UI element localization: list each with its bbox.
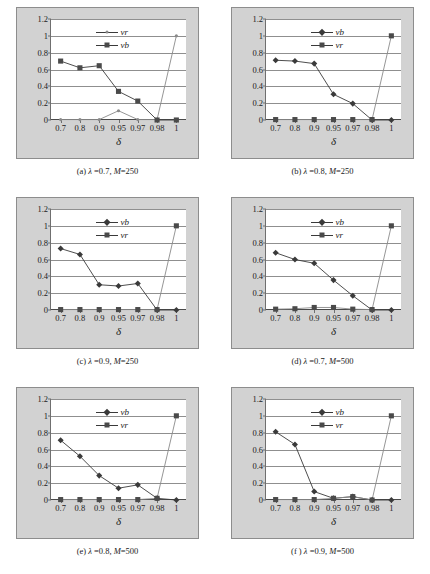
x-tick-label: 0.98 xyxy=(365,504,380,513)
y-tick-label: 0.8 xyxy=(37,238,48,247)
y-tick-label: 0.6 xyxy=(37,445,48,454)
x-tick-label: 0.98 xyxy=(365,314,380,323)
legend-label-vr: vr xyxy=(336,420,344,430)
panel-caption-c: (c) λ =0.9, M=250 xyxy=(77,356,139,366)
y-tick-label: 0.6 xyxy=(37,255,48,264)
legend-swatch-vb xyxy=(311,222,333,223)
plot-frame: 1.210.80.60.40.200.70.80.90.950.970.981δ… xyxy=(16,7,199,159)
y-tick-label: 1.2 xyxy=(252,15,263,24)
legend-swatch-vr xyxy=(311,425,333,426)
y-tick-label: 0.2 xyxy=(37,99,48,108)
plot-frame: 1.210.80.60.40.200.70.80.90.950.970.981δ… xyxy=(231,197,414,349)
plot-area: 1.210.80.60.40.200.70.80.90.950.970.981δ… xyxy=(265,209,401,310)
legend-label-vb: vb xyxy=(336,407,345,417)
x-tick-label: 1 xyxy=(389,504,393,513)
panel-caption-f: (f ) λ =0.9, M=500 xyxy=(291,546,354,556)
y-tick-label: 0.6 xyxy=(37,65,48,74)
x-axis-label: δ xyxy=(116,515,121,527)
x-tick-label: 0.7 xyxy=(270,124,281,133)
x-axis-label: δ xyxy=(331,135,336,147)
plot-frame: 1.210.80.60.40.200.70.80.90.950.970.981δ… xyxy=(16,197,199,349)
legend-label-vr: vr xyxy=(121,27,129,37)
y-tick-label: 0.4 xyxy=(37,272,48,281)
x-axis-label: δ xyxy=(331,325,336,337)
x-tick-label: 0.9 xyxy=(94,124,105,133)
legend-swatch-vr xyxy=(311,45,333,46)
y-tick-label: 0.8 xyxy=(37,48,48,57)
legend-swatch-vr xyxy=(96,235,118,236)
x-tick-label: 0.98 xyxy=(150,124,165,133)
plot-area: 1.210.80.60.40.200.70.80.90.950.970.981δ… xyxy=(50,209,186,310)
x-tick-label: 0.7 xyxy=(270,314,281,323)
x-axis-label: δ xyxy=(116,325,121,337)
x-tick-label: 0.97 xyxy=(130,504,145,513)
y-tick-label: 0.8 xyxy=(37,428,48,437)
legend-swatch-vr xyxy=(311,235,333,236)
legend-label-vr: vr xyxy=(336,230,344,240)
x-tick-label: 0.7 xyxy=(55,504,66,513)
y-tick-label: 0.6 xyxy=(252,255,263,264)
x-tick-label: 0.95 xyxy=(326,314,341,323)
x-tick-label: 0.7 xyxy=(55,314,66,323)
y-tick-label: 0.2 xyxy=(252,99,263,108)
x-tick-label: 0.9 xyxy=(94,504,105,513)
legend: vbvr xyxy=(96,407,130,430)
x-tick-label: 0.97 xyxy=(130,314,145,323)
x-tick-label: 0.95 xyxy=(111,504,126,513)
x-tick-label: 1 xyxy=(389,124,393,133)
x-tick-label: 0.8 xyxy=(290,124,301,133)
x-tick-label: 0.7 xyxy=(270,504,281,513)
x-tick-label: 0.97 xyxy=(345,504,360,513)
plot-area: 1.210.80.60.40.200.70.80.90.950.970.981δ… xyxy=(50,399,186,500)
y-tick-label: 0.2 xyxy=(37,289,48,298)
panel-caption-b: (b) λ =0.8, M=250 xyxy=(291,166,353,176)
x-tick-label: 0.98 xyxy=(150,504,165,513)
legend-item-vr: vr xyxy=(96,420,130,430)
legend-label-vb: vb xyxy=(121,40,130,50)
legend-swatch-vb xyxy=(311,32,333,33)
legend-item-vb: vb xyxy=(311,407,345,417)
x-tick-label: 1 xyxy=(174,314,178,323)
y-tick-label: 1 xyxy=(44,32,48,41)
y-tick-label: 1.2 xyxy=(37,205,48,214)
legend-item-vr: vr xyxy=(96,27,130,37)
y-tick-label: 1.2 xyxy=(252,395,263,404)
x-axis-label: δ xyxy=(116,135,121,147)
y-tick-label: 0 xyxy=(259,496,263,505)
legend: vbvr xyxy=(311,217,345,240)
x-tick-label: 0.7 xyxy=(55,124,66,133)
y-tick-label: 0 xyxy=(44,306,48,315)
y-tick-label: 1.2 xyxy=(252,205,263,214)
legend-item-vb: vb xyxy=(311,27,345,37)
x-tick-label: 0.8 xyxy=(290,504,301,513)
legend-item-vb: vb xyxy=(96,40,130,50)
legend-label-vb: vb xyxy=(121,407,130,417)
x-tick-label: 0.95 xyxy=(111,124,126,133)
legend-label-vb: vb xyxy=(336,217,345,227)
legend: vbvr xyxy=(96,217,130,240)
legend-swatch-vb xyxy=(96,412,118,413)
y-tick-label: 0.6 xyxy=(252,445,263,454)
y-tick-label: 1 xyxy=(259,222,263,231)
legend-item-vr: vr xyxy=(96,230,130,240)
chart-panel-e: 1.210.80.60.40.200.70.80.90.950.970.981δ… xyxy=(0,380,215,574)
x-tick-label: 0.97 xyxy=(345,124,360,133)
figure-panel-grid: 1.210.80.60.40.200.70.80.90.950.970.981δ… xyxy=(0,0,430,574)
legend-item-vb: vb xyxy=(96,407,130,417)
chart-panel-c: 1.210.80.60.40.200.70.80.90.950.970.981δ… xyxy=(0,190,215,380)
plot-frame: 1.210.80.60.40.200.70.80.90.950.970.981δ… xyxy=(231,387,414,539)
x-tick-label: 0.9 xyxy=(309,504,320,513)
x-tick-label: 0.8 xyxy=(290,314,301,323)
legend-label-vr: vr xyxy=(121,420,129,430)
plot-area: 1.210.80.60.40.200.70.80.90.950.970.981δ… xyxy=(50,19,186,120)
legend: vbvr xyxy=(311,407,345,430)
y-tick-label: 0.8 xyxy=(252,48,263,57)
legend-item-vb: vb xyxy=(96,217,130,227)
y-tick-label: 0 xyxy=(259,116,263,125)
y-tick-label: 0.4 xyxy=(252,82,263,91)
x-tick-label: 0.95 xyxy=(111,314,126,323)
legend-swatch-vb xyxy=(311,412,333,413)
y-tick-label: 0.2 xyxy=(37,479,48,488)
y-tick-label: 0.6 xyxy=(252,65,263,74)
plot-area: 1.210.80.60.40.200.70.80.90.950.970.981δ… xyxy=(265,19,401,120)
